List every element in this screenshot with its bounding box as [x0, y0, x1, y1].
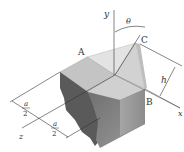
label-c: C — [141, 35, 148, 45]
dim-a-half-1: a 2 — [22, 100, 30, 118]
label-y: y — [103, 9, 110, 19]
label-b: B — [146, 97, 153, 107]
svg-text:a: a — [53, 120, 57, 128]
wedge-block-diagram: y θ C A h B x z a 2 a 2 — [0, 0, 184, 152]
svg-text:2: 2 — [52, 130, 56, 138]
label-h: h — [161, 75, 167, 85]
label-x: x — [178, 109, 183, 118]
theta-arc — [115, 26, 145, 32]
svg-text:a: a — [24, 100, 28, 108]
svg-text:2: 2 — [23, 110, 27, 118]
dim-a-half-2: a 2 — [51, 120, 59, 138]
label-a: A — [77, 47, 85, 57]
label-z: z — [18, 132, 24, 141]
label-theta: θ — [126, 17, 131, 26]
